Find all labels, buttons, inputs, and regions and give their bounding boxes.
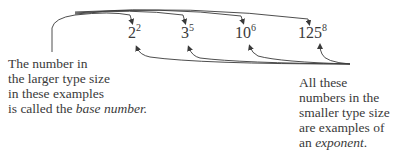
term-base-number: base number	[76, 101, 144, 116]
base-number: 3	[181, 24, 189, 41]
base-number: 125	[298, 24, 322, 41]
caption-line: All these	[299, 75, 390, 90]
exponent-caption: All these numbers in the smaller type si…	[299, 75, 390, 150]
caption-line: numbers in the	[299, 90, 390, 105]
base-arrow-to-2	[75, 13, 132, 22]
caption-line: smaller type size	[299, 105, 390, 120]
term-exponent: exponent	[315, 135, 364, 150]
caption-line: an exponent.	[299, 135, 390, 150]
caption-line: is called the base number.	[8, 101, 147, 116]
caption-line: are examples of	[299, 120, 390, 135]
caption-prefix: an	[299, 135, 315, 150]
example-125-to-8: 1258	[298, 24, 327, 42]
base-number: 10	[235, 24, 251, 41]
base-number-caption: The number in the larger type size in th…	[8, 56, 147, 116]
exponent: 2	[136, 22, 141, 33]
exponent: 8	[322, 22, 327, 33]
example-2-squared: 22	[128, 24, 141, 42]
base-arrow-stem	[52, 15, 75, 52]
caption-line: the larger type size	[8, 71, 147, 86]
caption-suffix: .	[144, 101, 147, 116]
caption-line: in these examples	[8, 86, 147, 101]
caption-prefix: is called the	[8, 101, 76, 116]
example-10-to-6: 106	[235, 24, 256, 42]
caption-suffix: .	[364, 135, 367, 150]
example-3-to-5: 35	[181, 24, 194, 42]
caption-line: The number in	[8, 56, 147, 71]
exponent-arrow-to-8	[320, 46, 350, 64]
base-number: 2	[128, 24, 136, 41]
exponent: 5	[189, 22, 194, 33]
exponent: 6	[251, 22, 256, 33]
